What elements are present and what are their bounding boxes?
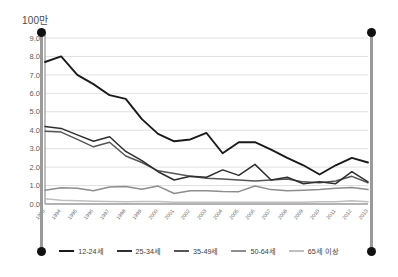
legend-label: 25-34세 [136, 246, 161, 256]
legend-swatch-icon [289, 250, 304, 253]
y-axis-tick-label: 8.0 [30, 52, 40, 61]
x-axis-tick-label: 2012 [341, 208, 353, 221]
selection-handle-top-left[interactable] [37, 28, 46, 37]
x-axis-tick-label: 2011 [325, 208, 337, 221]
x-axis-tick-label: 2006 [244, 208, 256, 221]
x-axis-tick-label: 2000 [147, 208, 159, 221]
series-line [45, 199, 368, 202]
selection-handle-top-right[interactable] [367, 28, 376, 37]
legend-item[interactable]: 35-49세 [174, 246, 218, 256]
x-axis-tick-label: 1999 [131, 208, 143, 221]
chart-container: 100만 0.01.02.03.04.05.06.07.08.09.0 1993… [0, 0, 398, 277]
selection-bar-right [370, 30, 372, 252]
legend-item[interactable]: 25-34세 [117, 246, 161, 256]
x-axis-tick-label: 2013 [357, 208, 369, 221]
y-axis-tick-label: 6.0 [30, 89, 40, 98]
legend-label: 12-24세 [78, 246, 103, 256]
y-axis-tick-label: 5.0 [30, 107, 40, 116]
y-axis-tick-label: 1.0 [30, 181, 40, 190]
selection-handle-bottom-left[interactable] [37, 247, 46, 256]
x-axis-ticks: 1993199419951996199719981999200020012002… [34, 208, 369, 221]
x-axis-tick-label: 1997 [99, 208, 111, 221]
x-axis-tick-label: 2005 [228, 208, 240, 221]
legend-swatch-icon [117, 250, 132, 253]
x-axis-tick-label: 1998 [115, 208, 127, 221]
series-line [45, 56, 368, 174]
chart-legend: 12-24세25-34세35-49세50-64세65세 이상 [0, 243, 398, 259]
y-axis-tick-label: 3.0 [30, 144, 40, 153]
legend-swatch-icon [59, 250, 74, 253]
line-chart-plot: 0.01.02.03.04.05.06.07.08.09.0 199319941… [0, 0, 398, 277]
y-axis-ticks: 0.01.02.03.04.05.06.07.08.09.0 [30, 34, 40, 209]
legend-label: 35-49세 [193, 246, 218, 256]
x-axis-tick-label: 2002 [179, 208, 191, 221]
selection-bar-left [40, 30, 42, 252]
data-series-lines [45, 56, 368, 202]
legend-item[interactable]: 50-64세 [231, 246, 275, 256]
y-axis-tick-label: 4.0 [30, 126, 40, 135]
gridlines [45, 38, 368, 204]
y-axis-tick-label: 0.0 [30, 200, 40, 209]
x-axis-tick-label: 2007 [260, 208, 272, 221]
x-axis-tick-label: 2003 [195, 208, 207, 221]
x-axis-tick-label: 1996 [82, 208, 94, 221]
x-axis-tick-label: 2008 [276, 208, 288, 221]
legend-label: 65세 이상 [308, 246, 339, 256]
x-axis-tick-label: 1995 [66, 208, 78, 221]
legend-swatch-icon [174, 250, 189, 253]
selection-handle-bottom-right[interactable] [367, 247, 376, 256]
x-axis-tick-label: 1994 [50, 208, 62, 221]
x-axis-tick-label: 2010 [309, 208, 321, 221]
x-axis-tick-label: 2004 [212, 208, 224, 221]
legend-item[interactable]: 65세 이상 [289, 246, 339, 256]
y-axis-tick-label: 2.0 [30, 163, 40, 172]
series-line [45, 186, 368, 194]
x-axis-tick-label: 2009 [292, 208, 304, 221]
x-axis-tick-label: 2001 [163, 208, 175, 221]
legend-label: 50-64세 [250, 246, 275, 256]
legend-item[interactable]: 12-24세 [59, 246, 103, 256]
y-axis-tick-label: 7.0 [30, 71, 40, 80]
legend-swatch-icon [231, 250, 246, 253]
